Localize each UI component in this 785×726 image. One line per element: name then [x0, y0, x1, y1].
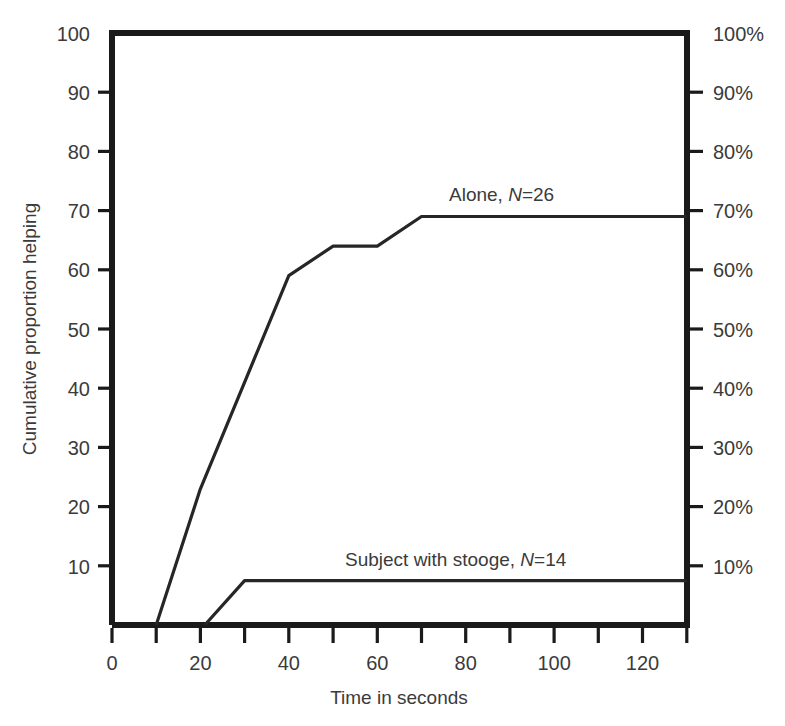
y-tick-label-left-90: 90 — [68, 82, 90, 104]
series-label-stooge-italic: N — [520, 549, 534, 570]
x-tick-label-60: 60 — [366, 652, 388, 674]
plot-frame — [112, 33, 687, 625]
y-tick-label-right-10: 10% — [713, 556, 753, 578]
x-tick-label-120: 120 — [626, 652, 659, 674]
series-label-stooge-prefix: Subject with stooge, — [345, 549, 520, 570]
y-tick-label-left-50: 50 — [68, 319, 90, 341]
y-tick-label-right-40: 40% — [713, 378, 753, 400]
y-axis-left-labels: 100 90 80 70 60 50 40 30 20 10 — [57, 23, 90, 578]
y-tick-label-left-70: 70 — [68, 200, 90, 222]
y-tick-label-left-100: 100 — [57, 23, 90, 45]
x-axis-labels: 0 20 40 60 80 100 120 — [106, 652, 659, 674]
y-tick-label-left-30: 30 — [68, 437, 90, 459]
y-tick-label-left-20: 20 — [68, 496, 90, 518]
chart-page: 100 90 80 70 60 50 40 30 20 10 100% 90% — [0, 0, 785, 726]
y-tick-label-left-80: 80 — [68, 141, 90, 163]
y-tick-label-right-90: 90% — [713, 82, 753, 104]
y-tick-label-right-100: 100% — [713, 23, 764, 45]
series-label-alone: Alone, N=26 — [449, 184, 554, 205]
y-tick-label-left-60: 60 — [68, 259, 90, 281]
series-label-alone-prefix: Alone, — [449, 184, 508, 205]
y-tick-label-right-70: 70% — [713, 200, 753, 222]
y-tick-label-right-80: 80% — [713, 141, 753, 163]
y-tick-label-right-30: 30% — [713, 437, 753, 459]
x-tick-label-0: 0 — [106, 652, 117, 674]
series-label-alone-suffix: =26 — [522, 184, 554, 205]
series-line-stooge — [205, 581, 687, 625]
y-tick-label-left-40: 40 — [68, 378, 90, 400]
y-axis-right-labels: 100% 90% 80% 70% 60% 50% 40% 30% 20% 10% — [713, 23, 764, 578]
line-chart: 100 90 80 70 60 50 40 30 20 10 100% 90% — [0, 0, 785, 726]
y-axis-left-ticks — [98, 92, 110, 566]
x-tick-label-40: 40 — [278, 652, 300, 674]
x-axis-ticks — [112, 628, 687, 643]
y-axis-title: Cumulative proportion helping — [19, 203, 40, 455]
x-tick-label-100: 100 — [537, 652, 570, 674]
y-tick-label-right-20: 20% — [713, 496, 753, 518]
series-label-stooge-suffix: =14 — [534, 549, 567, 570]
y-tick-label-right-50: 50% — [713, 319, 753, 341]
series-label-alone-italic: N — [508, 184, 522, 205]
y-axis-right-ticks — [690, 92, 703, 566]
series-label-stooge: Subject with stooge, N=14 — [345, 549, 567, 570]
x-tick-label-20: 20 — [189, 652, 211, 674]
x-tick-label-80: 80 — [455, 652, 477, 674]
y-tick-label-right-60: 60% — [713, 259, 753, 281]
x-axis-title: Time in seconds — [330, 687, 468, 708]
y-tick-label-left-10: 10 — [68, 556, 90, 578]
